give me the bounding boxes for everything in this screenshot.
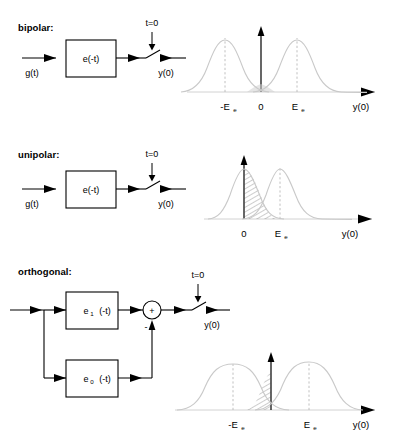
density-plot-bipolar: -E e 0 E e y(0) [185,14,390,119]
filter-block-e1-subscript: 1 [90,310,94,317]
svg-text:e: e [233,106,237,113]
svg-text:E: E [275,228,281,239]
section-orthogonal: orthogonal: e 1 (-t) + - [0,258,393,443]
x-axis-label-orthogonal: y(0) [353,419,369,430]
post-sum-arrow-icon [174,306,186,314]
filter-block-label: e(-t) [83,54,100,64]
tick-label-pos-Ee: E e [304,419,317,431]
block-diagram-bipolar: e(-t) t=0 g(t) y(0) [0,0,200,110]
section-heading-orthogonal: orthogonal: [18,266,72,277]
input-arrow-icon [44,185,56,193]
y-axis-arrow-icon [241,155,248,165]
filter-block-e0-arg: (-t) [99,374,111,384]
tick-label-neg-Ee: -E e [228,419,245,431]
input-label-bipolar: g(t) [25,68,39,78]
tick-label-neg-Ee: -E e [220,101,237,113]
x-axis-arrow-icon [361,406,375,415]
sum-input-arrow-icon [130,306,142,314]
output-label-orthogonal: y(0) [204,320,220,330]
svg-text:E: E [304,419,310,430]
block-diagram-unipolar: e(-t) t=0 g(t) y(0) [0,131,200,241]
hatched-error-region [245,372,271,410]
x-axis-label-bipolar: y(0) [353,101,369,112]
output-arrow-icon [160,185,172,193]
input-label-unipolar: g(t) [25,199,39,209]
input-arrow-icon [30,306,42,314]
output-arrow-icon [206,306,218,314]
svg-text:e: e [301,106,305,113]
svg-text:-E: -E [220,101,230,112]
mid-arrow-icon [128,185,140,193]
output-label-unipolar: y(0) [158,199,174,209]
y-axis-arrow-icon [268,352,275,362]
svg-text:-E: -E [228,419,238,430]
summing-junction-plus-label: + [149,306,154,316]
tick-label-zero: 0 [241,228,246,239]
switch-blade-unipolar [146,181,160,189]
tick-label-pos-Ee: E e [292,101,305,113]
filter-block-e0-subscript: 0 [90,378,94,385]
switch-pointer-arrow-icon [149,44,156,51]
output-label-bipolar: y(0) [158,68,174,78]
filter-block-label: e(-t) [83,185,100,195]
upper-branch-arrow-icon [54,306,66,314]
tick-label-Ee: E e [275,228,288,240]
density-plot-unipolar: 0 E e y(0) [200,145,393,250]
svg-text:e: e [313,424,317,431]
svg-text:e: e [284,233,288,240]
mid-arrow-icon [128,54,140,62]
lower-branch-arrow-icon [54,374,66,382]
switch-label-unipolar: t=0 [146,149,159,159]
filter-block-e1-label: e [83,306,88,316]
summing-junction-minus-label: - [145,322,148,332]
switch-blade-orthogonal [192,302,206,310]
filter-block-e1-arg: (-t) [99,306,111,316]
section-unipolar: unipolar: e(-t) t=0 g(t) y(0) [0,135,393,260]
switch-label-orthogonal: t=0 [192,270,205,280]
y-axis-arrow-icon [258,26,265,36]
tick-label-zero: 0 [258,101,263,112]
hatched-error-region [244,169,276,219]
density-plot-orthogonal: -E e E e y(0) [175,350,393,442]
switch-blade-bipolar [146,50,160,58]
input-arrow-icon [44,54,56,62]
output-arrow-icon [160,54,172,62]
section-bipolar: bipolar: e(-t) t=0 g(t) y(0) [0,0,393,130]
gaussian-curve-right [253,40,367,92]
switch-pointer-arrow-icon [149,175,156,182]
feedback-arrow-icon [130,374,142,382]
x-axis-label-unipolar: y(0) [342,228,358,239]
svg-text:E: E [292,101,298,112]
filter-block-e0-label: e [83,374,88,384]
svg-text:e: e [241,424,245,431]
switch-label-bipolar: t=0 [146,18,159,28]
switch-pointer-arrow-icon [195,296,202,303]
minus-input-arrow-icon [149,320,156,330]
x-axis-arrow-icon [358,215,372,224]
